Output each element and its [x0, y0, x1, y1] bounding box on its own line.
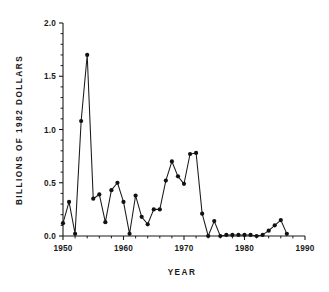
y-tick-label: 1.5	[44, 72, 56, 81]
data-point	[85, 53, 89, 57]
y-axis-title: BILLIONS OF 1982 DOLLARS	[15, 55, 24, 205]
data-point	[115, 181, 119, 185]
data-point	[164, 179, 168, 183]
data-point	[212, 219, 216, 223]
x-tick-label: 1950	[53, 244, 72, 253]
data-point	[242, 233, 246, 237]
data-point	[152, 207, 156, 211]
data-point	[206, 234, 210, 238]
data-point	[61, 221, 65, 225]
x-tick-label: 1960	[114, 244, 133, 253]
data-point	[224, 233, 228, 237]
data-point	[182, 182, 186, 186]
data-point	[236, 233, 240, 237]
data-point	[170, 159, 174, 163]
data-point	[140, 215, 144, 219]
data-point	[279, 218, 283, 222]
y-tick-label: 0.0	[44, 232, 56, 241]
data-point	[255, 234, 259, 238]
data-point	[79, 119, 83, 123]
data-point	[91, 197, 95, 201]
data-point	[261, 233, 265, 237]
x-axis-tick-labels: 19501960197019801990	[53, 244, 314, 253]
data-point	[121, 200, 125, 204]
data-point	[127, 232, 131, 236]
y-tick-label: 1.0	[44, 126, 56, 135]
data-point	[248, 233, 252, 237]
line-chart: 0.00.51.01.52.0 19501960197019801990 BIL…	[0, 0, 329, 292]
x-axis-title: YEAR	[168, 268, 197, 277]
series-line-expenditures	[63, 55, 287, 236]
chart-container: 0.00.51.01.52.0 19501960197019801990 BIL…	[0, 0, 329, 292]
data-point	[194, 151, 198, 155]
data-point	[267, 229, 271, 233]
data-point	[218, 234, 222, 238]
x-tick-label: 1980	[235, 244, 254, 253]
data-point	[73, 232, 77, 236]
data-point	[134, 193, 138, 197]
y-axis-tick-labels: 0.00.51.01.52.0	[44, 19, 56, 241]
data-point	[67, 200, 71, 204]
data-point	[273, 223, 277, 227]
y-tick-label: 2.0	[44, 19, 56, 28]
x-tick-label: 1970	[174, 244, 193, 253]
data-point	[97, 192, 101, 196]
data-point	[146, 222, 150, 226]
data-point	[230, 233, 234, 237]
data-point	[200, 212, 204, 216]
data-point	[176, 174, 180, 178]
data-point	[109, 188, 113, 192]
data-point	[188, 152, 192, 156]
x-tick-label: 1990	[295, 244, 314, 253]
data-point	[158, 207, 162, 211]
data-point	[285, 232, 289, 236]
y-tick-label: 0.5	[44, 179, 56, 188]
series-markers	[61, 53, 289, 238]
data-point	[103, 220, 107, 224]
